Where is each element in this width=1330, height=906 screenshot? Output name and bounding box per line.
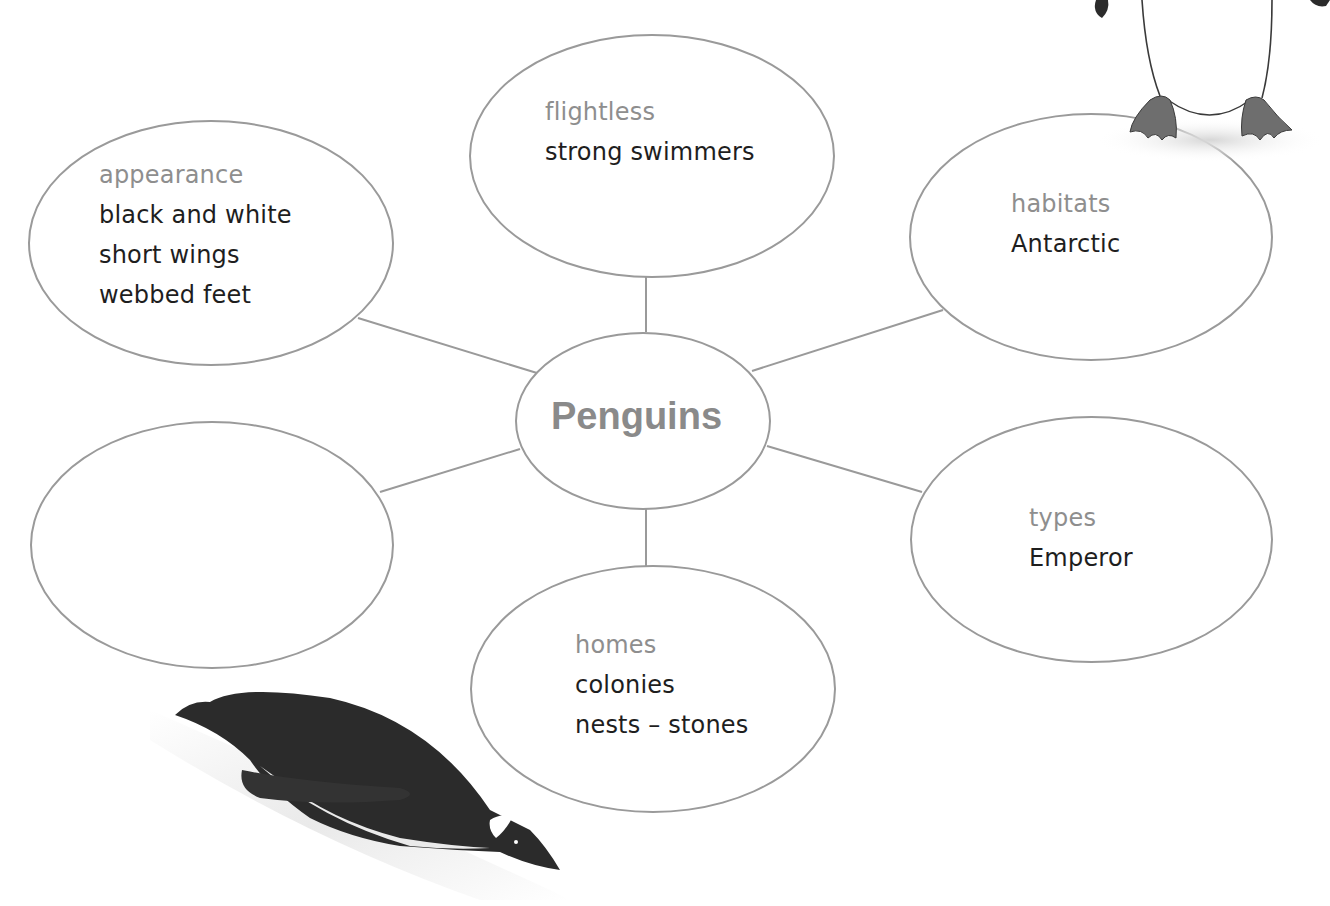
node-item: colonies xyxy=(575,665,749,705)
node-habitats-text: habitats Antarctic xyxy=(1011,184,1120,264)
penguin-eye xyxy=(514,840,518,844)
node-empty xyxy=(30,421,394,669)
center-title: Penguins xyxy=(551,395,722,438)
mind-map-canvas: Penguins flightless strong swimmers appe… xyxy=(0,0,1330,906)
node-item: Emperor xyxy=(1029,538,1133,578)
node-item: nests – stones xyxy=(575,705,749,745)
flipper-left xyxy=(1095,0,1109,18)
node-label: appearance xyxy=(99,155,292,195)
connector-empty xyxy=(380,449,520,492)
connector-habitats xyxy=(752,310,943,371)
connector-types xyxy=(767,446,922,492)
node-item: short wings xyxy=(99,235,292,275)
node-item: strong swimmers xyxy=(545,132,755,172)
node-label: flightless xyxy=(545,92,755,132)
node-item: Antarctic xyxy=(1011,224,1120,264)
standing-penguin-illustration xyxy=(1090,0,1330,170)
node-label: homes xyxy=(575,625,749,665)
sliding-penguin-illustration xyxy=(150,670,570,900)
flipper-right xyxy=(1310,0,1330,6)
node-item: black and white xyxy=(99,195,292,235)
node-item: webbed feet xyxy=(99,275,292,315)
node-flightless-text: flightless strong swimmers xyxy=(545,92,755,172)
connector-appearance xyxy=(358,318,537,373)
node-label: types xyxy=(1029,498,1133,538)
node-types-text: types Emperor xyxy=(1029,498,1133,578)
node-label: habitats xyxy=(1011,184,1120,224)
node-appearance-text: appearance black and white short wings w… xyxy=(99,155,292,315)
node-homes-text: homes colonies nests – stones xyxy=(575,625,749,745)
